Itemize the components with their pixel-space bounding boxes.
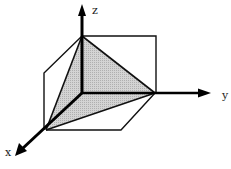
x-axis-label: x (5, 146, 12, 159)
z-arrowhead-icon (78, 4, 86, 16)
y-axis-label: y (221, 89, 229, 102)
y-arrowhead-icon (198, 89, 211, 98)
z-axis-label: z (92, 4, 98, 17)
3d-coordinate-diagram: z y x (0, 0, 231, 169)
